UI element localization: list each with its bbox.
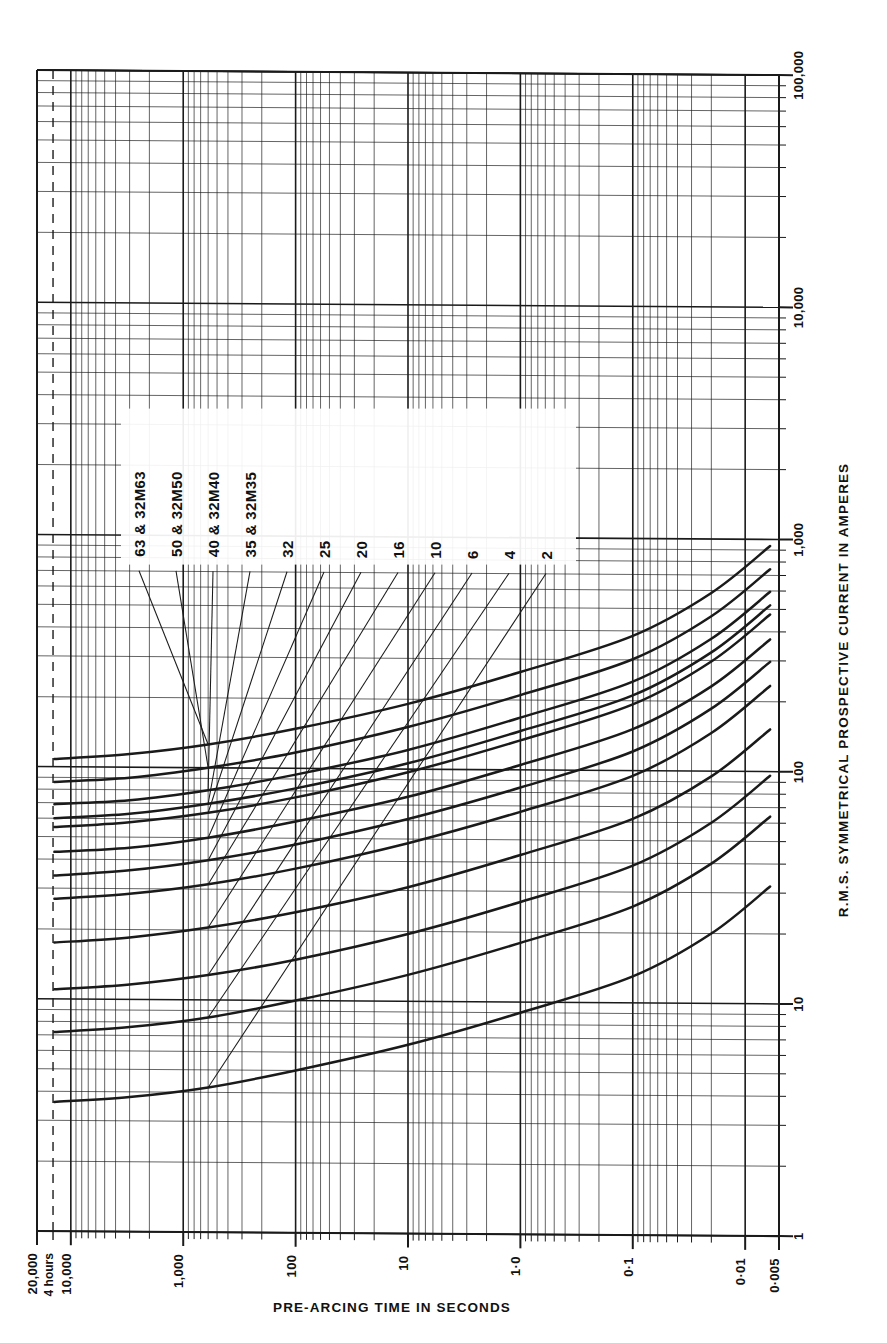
time-axis-tick-label: 0·01	[733, 1258, 748, 1285]
time-axis-tick-label: 0·1	[621, 1257, 636, 1277]
legend-label: 32	[279, 540, 296, 558]
time-axis-tick-label: 1·0	[508, 1256, 523, 1276]
time-axis-tick-label: 20,000	[25, 1253, 40, 1295]
legend-label: 50 & 32M50	[168, 471, 185, 557]
current-axis-tick-label: 1,000	[791, 523, 806, 557]
canvas-background	[0, 0, 887, 1343]
four-hours-label: 4 hours	[42, 1253, 56, 1297]
chart-figure: 63 & 32M6350 & 32M5040 & 32M4035 & 32M35…	[0, 0, 887, 1343]
current-axis-tick-label: 10,000	[791, 287, 806, 329]
legend-label: 40 & 32M40	[205, 472, 222, 558]
time-axis-tick-label: 10	[396, 1256, 411, 1271]
legend-label: 10	[427, 541, 444, 559]
legend-label: 20	[353, 541, 370, 559]
current-axis-tick-label: 100,000	[791, 51, 806, 100]
time-axis-tick-label: 10,000	[59, 1253, 74, 1295]
legend-label: 4	[501, 550, 518, 559]
time-axis-title: PRE-ARCING TIME IN SECONDS	[273, 1300, 511, 1315]
legend-label: 25	[316, 541, 333, 559]
legend-label: 16	[390, 541, 407, 559]
current-axis-tick-label: 1	[791, 1233, 806, 1241]
legend-label: 6	[464, 550, 481, 559]
time-axis-tick-label: 100	[284, 1255, 299, 1278]
current-axis-tick-label: 10	[791, 997, 806, 1012]
legend-label: 35 & 32M35	[242, 472, 259, 558]
legend-label: 63 & 32M63	[131, 471, 148, 557]
fuse-curve-chart-svg: 63 & 32M6350 & 32M5040 & 32M4035 & 32M35…	[0, 0, 887, 1343]
time-axis-tick-label: 1,000	[171, 1254, 186, 1288]
time-axis-tick-label: 0·005	[767, 1258, 782, 1293]
current-axis-title: R.M.S. SYMMETRICAL PROSPECTIVE CURRENT I…	[836, 463, 851, 917]
legend-box	[121, 409, 576, 565]
legend-label: 2	[538, 551, 555, 560]
current-axis-tick-label: 100	[791, 761, 806, 784]
